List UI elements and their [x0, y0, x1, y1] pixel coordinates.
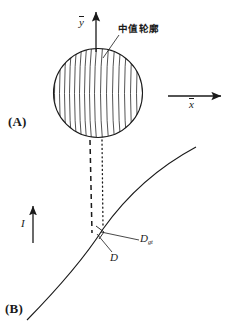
current-label: I [21, 218, 25, 229]
dgt-base: D [140, 232, 148, 244]
circle-hatching [55, 40, 146, 148]
figure-root: y x 中值轮廓 (A) (B) I D Dgt [0, 0, 226, 324]
dgt-subscript: gt [148, 238, 153, 245]
d-leader-line [97, 234, 112, 252]
hatched-circle [54, 40, 146, 148]
circle-outline [54, 49, 143, 138]
distance-d-label: D [110, 252, 118, 263]
median-contour-label: 中值轮廓 [118, 24, 159, 34]
panel-b-label: (B) [5, 302, 23, 315]
vertical-dashed-line [90, 140, 92, 233]
x-axis-label: x [189, 99, 194, 110]
diagram-canvas [0, 0, 226, 324]
distance-dgt-label: Dgt [140, 233, 153, 246]
dgt-leader-line [101, 232, 139, 240]
median-contour-leader-line [103, 35, 119, 58]
y-axis-label: y [79, 17, 84, 28]
boundary-curve [27, 147, 196, 320]
panel-a-label: (A) [8, 115, 27, 128]
vertical-dotted-line [102, 140, 103, 226]
